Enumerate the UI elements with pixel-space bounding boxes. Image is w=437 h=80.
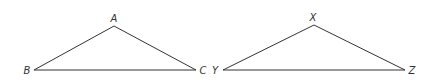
triangle-xyz	[223, 25, 405, 70]
vertex-label-c: C	[200, 65, 207, 76]
triangle-diagram: A B C X Y Z	[0, 0, 437, 80]
vertex-label-y: Y	[212, 65, 219, 76]
vertex-label-z: Z	[408, 65, 417, 76]
vertex-label-x: X	[309, 12, 318, 23]
vertex-label-a: A	[110, 13, 118, 24]
diagram-svg: A B C X Y Z	[0, 0, 437, 80]
triangle-abc	[34, 26, 196, 70]
vertex-label-b: B	[24, 65, 31, 76]
